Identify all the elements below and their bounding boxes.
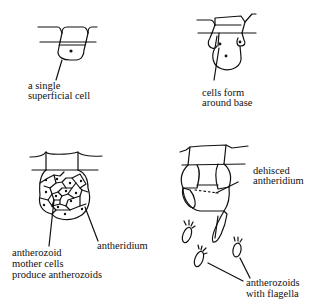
antherozoid-3	[232, 237, 242, 258]
stage-4-bottom-label-line-1: antherozoids	[246, 278, 300, 288]
antherozoid-2	[193, 245, 207, 268]
stage-2-label-line-2: around base	[202, 98, 252, 108]
stage-3-drawing	[30, 152, 102, 246]
stage-4-label-line-2: antheridium	[253, 176, 304, 186]
stage-1-label-line-2: superficial cell	[28, 91, 90, 101]
stage-3-label-line-1: antherozoid	[12, 248, 62, 258]
stage-1-drawing	[38, 27, 97, 80]
stage-3-label-line-3: produce antherozoids	[12, 270, 102, 280]
stage-4-drawing	[180, 145, 250, 281]
stage-3-label-line-2: mother cells	[12, 259, 64, 269]
antherozoid-1	[181, 220, 195, 244]
stage-4-bottom-label-line-2: with flagella	[246, 289, 299, 299]
stage-3-side-label: antheridium	[97, 241, 148, 251]
stage-2-drawing	[197, 14, 256, 80]
